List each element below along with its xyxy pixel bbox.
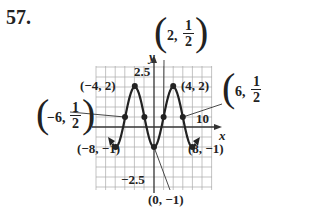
label-point-neg8-neg1: (−8, −1): [77, 141, 120, 157]
tick-label-10: 10: [196, 111, 209, 127]
label-point-0-neg1: (0, −1): [148, 192, 184, 208]
label-point-4-2: (4, 2): [181, 78, 209, 94]
tick-label-2.5: 2.5: [134, 64, 150, 80]
tick-label-neg-2.5: −2.5: [121, 172, 145, 188]
label-point-8-neg1: (8, −1): [188, 141, 224, 157]
